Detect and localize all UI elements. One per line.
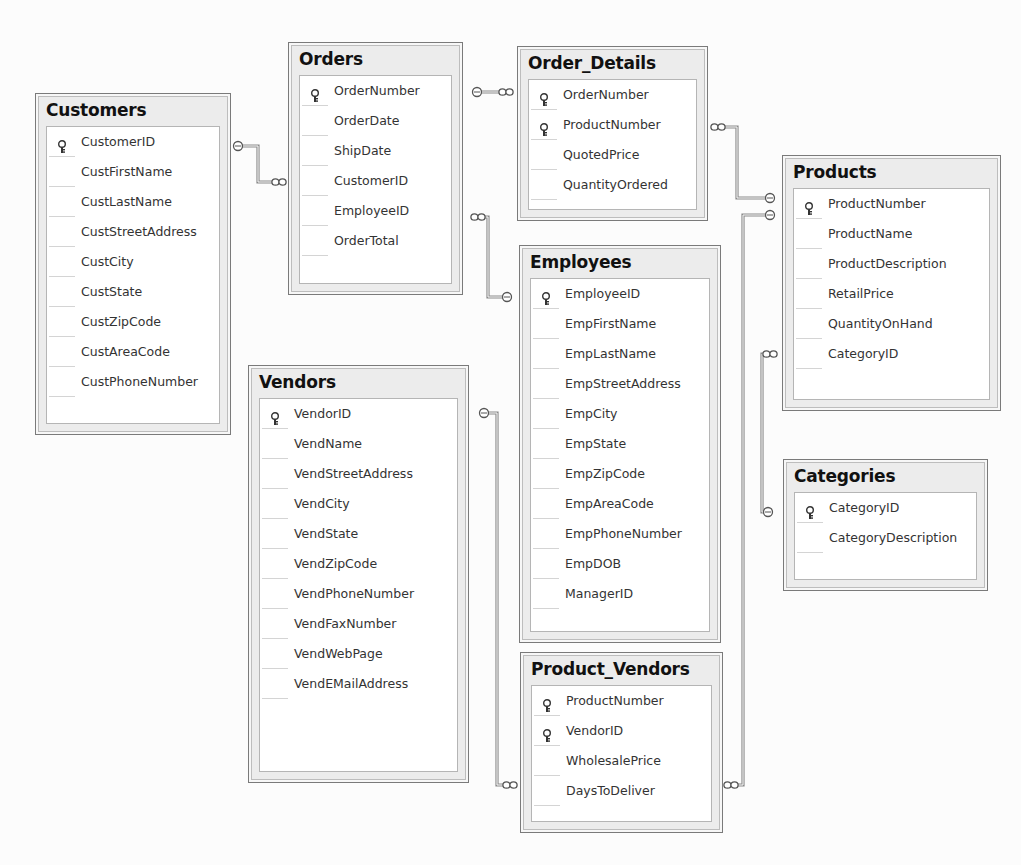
row-selector — [533, 579, 559, 609]
table-order-details[interactable]: Order_Details OrderNumberProductNumberQu… — [517, 46, 708, 221]
primary-key-field-row[interactable]: ProductNumber — [794, 189, 989, 219]
row-selector — [796, 249, 822, 279]
row-selector — [797, 493, 823, 523]
row-selector — [49, 247, 75, 277]
field-row[interactable]: RetailPrice — [794, 279, 989, 309]
primary-key-icon — [542, 724, 552, 738]
field-row[interactable]: ShipDate — [300, 136, 451, 166]
table-products[interactable]: Products ProductNumberProductNameProduct… — [782, 155, 1001, 411]
field-name: CategoryDescription — [829, 523, 957, 553]
primary-key-field-row[interactable]: ProductNumber — [532, 686, 711, 716]
field-list: ProductNumberProductNameProductDescripti… — [793, 188, 990, 400]
field-row[interactable]: CustPhoneNumber — [47, 367, 219, 397]
field-row[interactable]: CustomerID — [300, 166, 451, 196]
field-row[interactable]: CustLastName — [47, 187, 219, 217]
field-name: VendorID — [294, 399, 351, 429]
table-title: Vendors — [259, 372, 336, 392]
table-title: Orders — [299, 49, 363, 69]
row-selector — [302, 166, 328, 196]
row-selector — [533, 369, 559, 399]
field-row[interactable]: ProductName — [794, 219, 989, 249]
field-row[interactable]: ManagerID — [531, 579, 709, 609]
field-row[interactable]: DaysToDeliver — [532, 776, 711, 806]
field-row[interactable]: EmpCity — [531, 399, 709, 429]
field-row[interactable]: VendCity — [260, 489, 457, 519]
field-row[interactable]: CustFirstName — [47, 157, 219, 187]
field-row[interactable]: CategoryDescription — [795, 523, 976, 553]
row-selector — [49, 187, 75, 217]
row-selector — [49, 337, 75, 367]
field-row[interactable]: QuotedPrice — [529, 140, 696, 170]
field-name: ProductNumber — [828, 189, 926, 219]
field-row[interactable]: EmpState — [531, 429, 709, 459]
table-vendors[interactable]: Vendors VendorIDVendNameVendStreetAddres… — [248, 365, 469, 783]
field-row[interactable]: EmployeeID — [300, 196, 451, 226]
field-row[interactable]: VendEMailAddress — [260, 669, 457, 699]
row-selector — [49, 307, 75, 337]
field-row[interactable]: VendPhoneNumber — [260, 579, 457, 609]
field-list: EmployeeIDEmpFirstNameEmpLastNameEmpStre… — [530, 278, 710, 632]
field-list: CategoryIDCategoryDescription — [794, 492, 977, 580]
table-employees[interactable]: Employees EmployeeIDEmpFirstNameEmpLastN… — [519, 245, 721, 643]
field-row[interactable]: CustZipCode — [47, 307, 219, 337]
field-row[interactable]: VendState — [260, 519, 457, 549]
table-product-vendors[interactable]: Product_Vendors ProductNumberVendorIDWho… — [520, 652, 723, 833]
field-row[interactable]: EmpAreaCode — [531, 489, 709, 519]
field-row[interactable]: QuantityOnHand — [794, 309, 989, 339]
table-orders[interactable]: Orders OrderNumberOrderDateShipDateCusto… — [288, 42, 463, 295]
row-selector — [796, 189, 822, 219]
field-row[interactable]: VendFaxNumber — [260, 609, 457, 639]
table-customers[interactable]: Customers CustomerIDCustFirstNameCustLas… — [35, 93, 231, 435]
primary-key-field-row[interactable]: ProductNumber — [529, 110, 696, 140]
field-name: VendEMailAddress — [294, 669, 408, 699]
field-row[interactable]: EmpFirstName — [531, 309, 709, 339]
primary-key-field-row[interactable]: OrderNumber — [529, 80, 696, 110]
field-name: CustState — [81, 277, 142, 307]
field-name: CustPhoneNumber — [81, 367, 198, 397]
field-name: OrderNumber — [563, 80, 649, 110]
field-row[interactable]: EmpPhoneNumber — [531, 519, 709, 549]
field-row[interactable]: OrderTotal — [300, 226, 451, 256]
field-name: VendState — [294, 519, 358, 549]
field-row[interactable]: QuantityOrdered — [529, 170, 696, 200]
field-name: ProductNumber — [566, 686, 664, 716]
field-row[interactable]: CategoryID — [794, 339, 989, 369]
field-row[interactable]: VendWebPage — [260, 639, 457, 669]
table-categories[interactable]: Categories CategoryIDCategoryDescription — [783, 459, 988, 591]
row-selector — [533, 429, 559, 459]
field-name: VendWebPage — [294, 639, 383, 669]
field-row[interactable]: EmpZipCode — [531, 459, 709, 489]
field-row[interactable]: EmpStreetAddress — [531, 369, 709, 399]
field-row[interactable]: VendZipCode — [260, 549, 457, 579]
field-name: CustFirstName — [81, 157, 172, 187]
field-row[interactable]: CustAreaCode — [47, 337, 219, 367]
field-name: ProductDescription — [828, 249, 947, 279]
field-name: EmpPhoneNumber — [565, 519, 682, 549]
primary-key-field-row[interactable]: CustomerID — [47, 127, 219, 157]
field-name: EmpDOB — [565, 549, 621, 579]
primary-key-field-row[interactable]: EmployeeID — [531, 279, 709, 309]
field-row[interactable]: CustStreetAddress — [47, 217, 219, 247]
primary-key-field-row[interactable]: VendorID — [260, 399, 457, 429]
row-selector — [533, 309, 559, 339]
field-row[interactable]: CustState — [47, 277, 219, 307]
field-row[interactable]: WholesalePrice — [532, 746, 711, 776]
row-selector — [534, 686, 560, 716]
field-name: WholesalePrice — [566, 746, 661, 776]
field-row[interactable]: ProductDescription — [794, 249, 989, 279]
field-row[interactable]: VendStreetAddress — [260, 459, 457, 489]
field-list: OrderNumberOrderDateShipDateCustomerIDEm… — [299, 75, 452, 284]
field-row[interactable]: CustCity — [47, 247, 219, 277]
field-row[interactable]: OrderDate — [300, 106, 451, 136]
row-selector — [262, 549, 288, 579]
field-row[interactable]: VendName — [260, 429, 457, 459]
row-selector — [534, 716, 560, 746]
row-selector — [302, 106, 328, 136]
primary-key-field-row[interactable]: OrderNumber — [300, 76, 451, 106]
primary-key-field-row[interactable]: VendorID — [532, 716, 711, 746]
field-name: VendFaxNumber — [294, 609, 396, 639]
row-selector — [302, 136, 328, 166]
field-row[interactable]: EmpLastName — [531, 339, 709, 369]
field-row[interactable]: EmpDOB — [531, 549, 709, 579]
primary-key-field-row[interactable]: CategoryID — [795, 493, 976, 523]
